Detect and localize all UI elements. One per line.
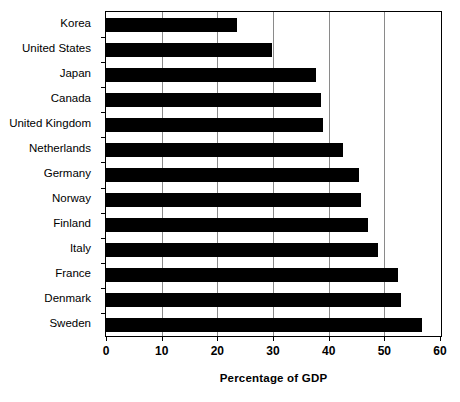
y-axis-tick <box>101 162 106 163</box>
category-label: Canada <box>0 93 91 105</box>
x-axis-tick <box>440 336 441 341</box>
category-label: Japan <box>0 68 91 80</box>
bar <box>106 243 378 257</box>
x-axis-tick <box>217 336 218 341</box>
bar <box>106 193 361 207</box>
category-label: Italy <box>0 243 91 255</box>
x-axis-title: Percentage of GDP <box>105 372 442 384</box>
y-axis-tick <box>101 263 106 264</box>
category-label: United Kingdom <box>0 118 91 130</box>
y-axis-tick <box>101 213 106 214</box>
bar <box>106 68 316 82</box>
y-axis-tick <box>101 87 106 88</box>
x-axis-tick-labels: 0102030405060 <box>0 344 460 360</box>
x-axis-tick-label: 40 <box>299 344 359 358</box>
y-axis-tick <box>101 288 106 289</box>
bar <box>106 93 321 107</box>
category-label: Finland <box>0 218 91 230</box>
category-label: Norway <box>0 193 91 205</box>
category-axis-labels: KoreaUnited StatesJapanCanadaUnited King… <box>0 11 97 337</box>
x-axis-tick-label: 0 <box>76 344 136 358</box>
bar <box>106 143 343 157</box>
x-axis-tick-label: 10 <box>132 344 192 358</box>
bar-chart: KoreaUnited StatesJapanCanadaUnited King… <box>0 0 460 402</box>
bar <box>106 43 272 57</box>
x-axis-tick <box>162 336 163 341</box>
category-label: Korea <box>0 18 91 30</box>
bar <box>106 218 368 232</box>
bar <box>106 268 398 282</box>
bar <box>106 118 323 132</box>
y-axis-tick <box>101 37 106 38</box>
y-axis-tick <box>101 137 106 138</box>
x-axis-tick-label: 50 <box>354 344 414 358</box>
y-axis-tick <box>101 313 106 314</box>
category-label: Germany <box>0 168 91 180</box>
x-axis-tick-label: 20 <box>187 344 247 358</box>
x-axis-tick <box>329 336 330 341</box>
x-axis-tick-label: 60 <box>410 344 460 358</box>
y-axis-tick <box>101 62 106 63</box>
bar <box>106 18 237 32</box>
gridline <box>384 12 385 336</box>
plot-inner <box>106 12 441 336</box>
category-label: Denmark <box>0 293 91 305</box>
y-axis-tick <box>101 112 106 113</box>
plot-area <box>105 11 442 337</box>
x-axis-tick <box>106 336 107 341</box>
category-label: Sweden <box>0 318 91 330</box>
category-label: United States <box>0 43 91 55</box>
x-axis-tick-label: 30 <box>243 344 303 358</box>
x-axis-tick <box>273 336 274 341</box>
x-axis-tick <box>384 336 385 341</box>
category-label: France <box>0 268 91 280</box>
bar <box>106 168 359 182</box>
bar <box>106 318 422 332</box>
bar <box>106 293 401 307</box>
y-axis-tick <box>101 188 106 189</box>
y-axis-tick <box>101 238 106 239</box>
category-label: Netherlands <box>0 143 91 155</box>
